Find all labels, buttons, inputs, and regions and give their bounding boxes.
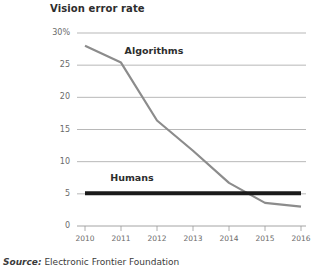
x-tick-label: 2013 <box>175 234 211 243</box>
y-tick-label: 10 <box>40 157 70 166</box>
x-tick-label: 2010 <box>67 234 103 243</box>
y-tick-label: 0 <box>40 221 70 230</box>
y-tick-label: 30% <box>40 28 70 37</box>
source-note: Source: Electronic Frontier Foundation <box>3 257 179 267</box>
x-axis-ticks <box>85 226 301 231</box>
x-tick-label: 2012 <box>139 234 175 243</box>
source-text: Electronic Frontier Foundation <box>42 257 180 267</box>
source-prefix: Source: <box>3 257 42 267</box>
y-tick-label: 15 <box>40 125 70 134</box>
series-label-humans: Humans <box>110 172 153 183</box>
gridlines <box>77 33 306 226</box>
x-tick-label: 2014 <box>211 234 247 243</box>
x-tick-label: 2016 <box>283 234 319 243</box>
x-tick-label: 2011 <box>103 234 139 243</box>
y-tick-label: 5 <box>40 189 70 198</box>
series-label-algorithms: Algorithms <box>125 45 184 56</box>
y-tick-label: 20 <box>40 92 70 101</box>
x-tick-label: 2015 <box>247 234 283 243</box>
chart-figure: Vision error rate 30%2520151050 20102011… <box>0 0 321 275</box>
y-tick-label: 25 <box>40 60 70 69</box>
plot-area: 30%2520151050 20102011201220132014201520… <box>0 0 321 250</box>
